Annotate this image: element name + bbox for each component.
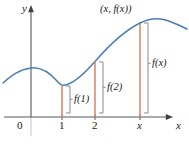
- point-marker-x-fx: [139, 22, 141, 24]
- brace-label-fx: f(x): [152, 58, 167, 69]
- x-axis-arrowhead: [166, 114, 173, 120]
- brace-f1: [66, 86, 73, 113]
- y-axis-arrowhead: [28, 5, 34, 12]
- x-axis: [4, 114, 173, 120]
- tick-label-1: 1: [59, 120, 65, 131]
- brace-label-f1: f(1): [74, 94, 89, 105]
- tick-label-x: x: [137, 120, 142, 131]
- tick-label-0: 0: [17, 120, 23, 131]
- y-axis-label: y: [22, 3, 27, 14]
- y-axis: [28, 5, 34, 136]
- brace-fx: [144, 23, 151, 113]
- x-axis-label: x: [176, 120, 181, 131]
- tick-label-2: 2: [92, 120, 98, 131]
- brace-f2: [99, 62, 106, 113]
- brace-label-f2: f(2): [107, 82, 122, 93]
- function-graph-figure: y x 0 1 2 x f(1) f(2) f(x) (x, f(x)): [0, 0, 189, 145]
- point-coordinate-label: (x, f(x)): [100, 4, 131, 15]
